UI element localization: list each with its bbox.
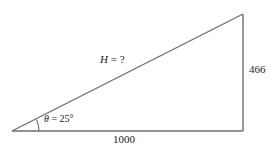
hypotenuse-variable: H — [100, 53, 108, 65]
hypotenuse-separator: = — [108, 53, 120, 65]
opposite-side-label: 466 — [249, 64, 266, 75]
angle-arc-icon — [37, 120, 40, 131]
angle-separator: = — [49, 113, 60, 124]
hypotenuse-label: H = ? — [100, 54, 125, 65]
adjacent-side-label: 1000 — [113, 134, 135, 145]
hypotenuse-value: ? — [120, 53, 125, 65]
angle-label: θ = 25° — [44, 114, 74, 124]
triangle-diagram — [0, 0, 273, 153]
angle-value: 25° — [60, 113, 74, 124]
figure-canvas: H = ? θ = 25° 466 1000 — [0, 0, 273, 153]
